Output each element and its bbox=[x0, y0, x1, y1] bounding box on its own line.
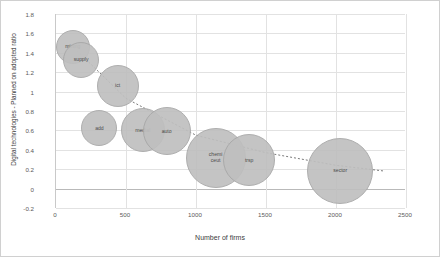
x-tick-label: 1500 bbox=[245, 211, 285, 218]
gridline-vertical bbox=[126, 14, 127, 208]
gridline-horizontal bbox=[56, 33, 405, 34]
y-tick-label: -0.2 bbox=[0, 205, 34, 212]
x-tick-label: 2500 bbox=[385, 211, 425, 218]
gridline-horizontal bbox=[56, 208, 405, 209]
y-tick-label: 0.8 bbox=[0, 108, 34, 115]
y-tick-label: 0.4 bbox=[0, 146, 34, 153]
bubble-chart: Digital technologies - Planned on adopte… bbox=[0, 0, 440, 257]
gridline-horizontal bbox=[56, 14, 405, 15]
y-tick-label: 0.6 bbox=[0, 127, 34, 134]
x-tick-label: 0 bbox=[35, 211, 75, 218]
x-tick-label: 2000 bbox=[315, 211, 355, 218]
bubble-point[interactable]: auto bbox=[143, 107, 191, 155]
bubble-label: chemi ceut bbox=[209, 152, 223, 163]
bubble-label: trsp bbox=[245, 158, 254, 163]
bubble-label: sector bbox=[333, 168, 347, 173]
y-tick-label: 1.6 bbox=[0, 30, 34, 37]
bubble-point[interactable]: trsp bbox=[223, 134, 275, 186]
bubble-point[interactable]: supply bbox=[63, 42, 99, 78]
x-axis-label: Number of firms bbox=[0, 234, 440, 241]
bubble-point[interactable]: sector bbox=[307, 138, 373, 204]
y-tick-label: 0.2 bbox=[0, 166, 34, 173]
bubble-point[interactable]: add bbox=[81, 110, 117, 146]
y-tick-label: 1.8 bbox=[0, 11, 34, 18]
bubble-label: supply bbox=[74, 57, 89, 62]
bubble-label: ict bbox=[115, 83, 120, 88]
gridline-horizontal bbox=[56, 53, 405, 54]
y-axis-label: Digital technologies - Planned on adopte… bbox=[10, 20, 17, 180]
y-tick-label: 1.4 bbox=[0, 49, 34, 56]
gridline-vertical bbox=[406, 14, 407, 208]
bubble-point[interactable]: ict bbox=[97, 65, 139, 107]
bubble-label: add bbox=[95, 126, 104, 131]
bubble-label: auto bbox=[162, 129, 172, 134]
y-tick-label: 1.2 bbox=[0, 69, 34, 76]
x-tick-label: 1000 bbox=[175, 211, 215, 218]
y-tick-label: 0 bbox=[0, 185, 34, 192]
y-tick-label: 1 bbox=[0, 88, 34, 95]
plot-area: miningsupplyictaddmediaIautochemi ceuttr… bbox=[55, 14, 405, 208]
x-tick-label: 500 bbox=[105, 211, 145, 218]
